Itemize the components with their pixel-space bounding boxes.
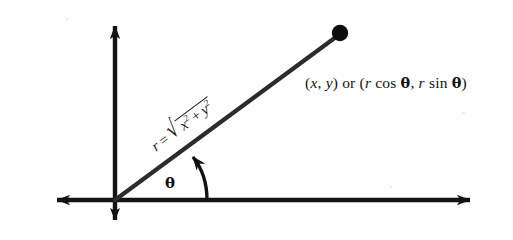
theta-symbol-sin: θ	[452, 74, 462, 91]
cos-name: cos	[375, 74, 396, 91]
polar-coordinates-figure: (x, y) or (r cos θ, r sin θ) θ r=√x2+y2	[0, 0, 513, 240]
theta-symbol-cos: θ	[401, 74, 411, 91]
coord-y-symbol: y	[326, 74, 333, 91]
angle-arc	[193, 157, 207, 200]
terminal-point-dot	[332, 25, 348, 41]
coord-separator: ,	[317, 74, 325, 91]
angle-arc-group	[193, 157, 207, 200]
diagram-canvas	[0, 0, 513, 240]
coord-close-paren: )	[333, 74, 342, 91]
polar-close-paren: )	[462, 74, 467, 91]
point-coordinates-label: (x, y) or (r cos θ, r sin θ)	[305, 75, 467, 91]
polar-separator: ,	[410, 74, 418, 91]
label-conjunction: or	[342, 74, 355, 91]
polar-open-paren: (	[355, 74, 364, 91]
axis-group	[57, 26, 470, 220]
radius-ray-group	[115, 25, 348, 200]
theta-angle-label: θ	[165, 176, 175, 191]
sin-name: sin	[429, 74, 448, 91]
radius-ray	[115, 37, 336, 200]
